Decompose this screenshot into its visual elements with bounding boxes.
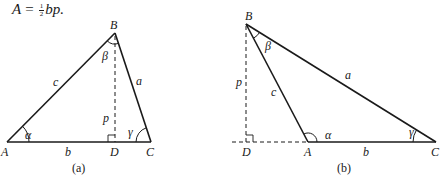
angle-label-beta-a: β <box>101 49 108 63</box>
figure-a-labels: B A D C c a b p α β γ (a) <box>0 18 155 175</box>
vertex-label-C-b: C <box>431 145 440 159</box>
side-label-a-a: a <box>136 74 142 88</box>
side-a-b <box>246 24 436 142</box>
vertex-label-B-b: B <box>245 9 253 23</box>
vertex-label-B-a: B <box>110 18 118 32</box>
side-label-a-b: a <box>345 68 351 82</box>
angle-label-alpha-a: α <box>25 128 32 142</box>
figure-b-labels: B D A C c a b p α β γ (b) <box>235 9 440 175</box>
vertex-label-D-b: D <box>241 145 251 159</box>
vertex-label-C-a: C <box>146 145 155 159</box>
angle-arc-gamma-a <box>136 128 146 142</box>
side-label-p-a: p <box>102 111 109 125</box>
side-label-p-b: p <box>235 75 242 89</box>
triangle-diagrams: B A D C c a b p α β γ (a) B D A C c a b <box>0 0 441 178</box>
caption-a: (a) <box>72 161 85 175</box>
side-label-b-b: b <box>363 145 369 159</box>
right-angle-marker-b <box>246 135 253 142</box>
side-c-b <box>246 24 308 142</box>
vertex-label-A-a: A <box>0 145 9 159</box>
caption-b: (b) <box>337 161 351 175</box>
angle-label-beta-b: β <box>264 39 271 53</box>
side-label-b-a: b <box>65 145 71 159</box>
vertex-label-D-a: D <box>109 145 119 159</box>
angle-arc-beta-b <box>254 32 260 38</box>
side-a-a <box>115 33 151 142</box>
angle-label-alpha-b: α <box>325 128 332 142</box>
angle-label-gamma-a: γ <box>128 125 133 139</box>
vertex-label-A-b: A <box>303 145 312 159</box>
side-label-c-a: c <box>53 75 59 89</box>
side-label-c-b: c <box>271 85 277 99</box>
angle-label-gamma-b: γ <box>409 125 414 139</box>
figure-b <box>232 24 436 142</box>
right-angle-marker-a <box>108 135 115 142</box>
side-c-a <box>7 33 115 142</box>
angle-arc-beta-a <box>107 41 118 44</box>
